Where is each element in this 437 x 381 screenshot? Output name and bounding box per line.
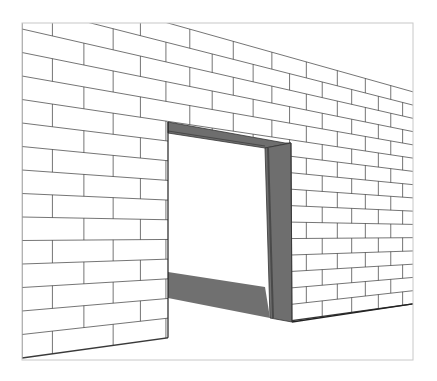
brick-wall-illustration (0, 0, 437, 381)
wall-drawing (0, 0, 437, 381)
